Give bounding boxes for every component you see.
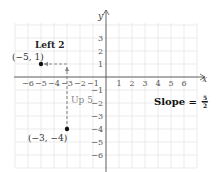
data-point <box>39 62 43 66</box>
data-point <box>65 127 69 131</box>
x-tick-label: −5 <box>35 79 47 88</box>
point-b-label: (−3, −4) <box>28 133 67 143</box>
x-tick-label: 1 <box>116 79 121 88</box>
x-tick-label: 5 <box>168 79 173 88</box>
x-tick-label: 2 <box>129 79 134 88</box>
y-axis-label: y <box>97 11 104 21</box>
x-tick-label: 6 <box>181 79 186 88</box>
y-tick-label: 3 <box>98 34 103 43</box>
rise-run-path <box>44 62 69 129</box>
axes <box>14 10 205 172</box>
x-tick-label: −6 <box>22 79 34 88</box>
up-annotation: Up 5 <box>71 95 93 105</box>
y-tick-label: −5 <box>91 138 103 147</box>
left-annotation: Left 2 <box>35 40 64 50</box>
y-tick-label: 2 <box>98 47 103 56</box>
point-a-label: (−5, 1) <box>12 52 44 62</box>
y-tick-label: −1 <box>91 86 103 95</box>
x-axis-label: x <box>202 74 207 84</box>
x-tick-label: −4 <box>48 79 60 88</box>
slope-text: Slope = − <box>154 96 209 107</box>
slope-denominator: 2 <box>203 102 207 109</box>
y-tick-label: −4 <box>91 125 103 134</box>
y-tick-label: −3 <box>91 112 103 121</box>
y-tick-label: −6 <box>91 151 103 160</box>
arrowhead-icon <box>65 67 69 71</box>
y-tick-label: 1 <box>98 60 103 69</box>
x-tick-label: 4 <box>155 79 160 88</box>
arrowhead-icon <box>44 62 48 66</box>
x-tick-label: −2 <box>74 79 86 88</box>
y-tick-label: −2 <box>91 99 103 108</box>
slope-numerator: 5 <box>203 94 207 101</box>
coordinate-plane: −6−5−4−3−2−1123456321−1−2−3−4−5−6 y x Le… <box>0 0 218 172</box>
x-tick-label: 3 <box>142 79 147 88</box>
